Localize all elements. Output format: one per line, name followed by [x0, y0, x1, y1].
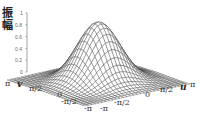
z-axis-label: 振 幅 [2, 8, 14, 32]
v-tick-pi: π [5, 79, 10, 88]
z-tick-0: 0 [20, 69, 23, 75]
u-axis-label: u [180, 82, 187, 92]
v-tick-neg-pi: -π [84, 104, 92, 113]
u-tick-neg-pi-half: -π/2 [114, 98, 130, 107]
z-tick-0.8: 0.8 [15, 22, 22, 28]
u-tick-pi-half: π/2 [160, 85, 173, 94]
v-tick-pi-half: π/2 [29, 84, 42, 93]
u-tick-0: 0 [145, 90, 150, 99]
v-tick-neg-pi-half: -π/2 [61, 97, 77, 106]
u-tick-neg-pi: -π [100, 104, 108, 113]
z-label-char-2: 幅 [2, 20, 14, 32]
z-axis [26, 13, 28, 72]
z-tick-0.4: 0.4 [15, 46, 22, 52]
v-axis-label: v [17, 79, 22, 89]
u-tick-pi: π [190, 80, 195, 89]
z-tick-0.6: 0.6 [15, 34, 22, 40]
z-tick-0.2: 0.2 [15, 57, 22, 63]
surface-plot [0, 0, 200, 117]
z-tick-1: 1 [20, 10, 23, 16]
